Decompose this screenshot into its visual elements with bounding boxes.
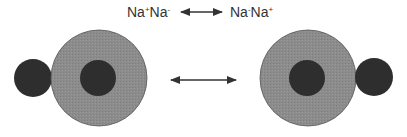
right-large-atom-core	[289, 60, 325, 96]
left-small-atom	[14, 59, 52, 97]
element-symbol: Na	[230, 4, 248, 20]
element-symbol: Na	[251, 4, 269, 20]
resonance-diagram	[0, 0, 407, 137]
equation-left: Na+Na-	[127, 4, 170, 20]
right-small-atom	[355, 58, 393, 96]
charge: -	[167, 5, 170, 14]
element-symbol: Na	[150, 4, 168, 20]
element-symbol: Na	[127, 4, 145, 20]
left-structure	[14, 30, 147, 126]
charge: +	[268, 5, 273, 14]
equation-right: Na-Na+	[230, 4, 273, 20]
left-large-atom-core	[80, 60, 116, 96]
right-structure	[260, 30, 393, 126]
